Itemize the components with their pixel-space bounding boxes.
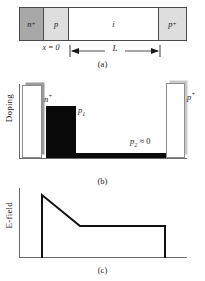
region-p-label: p xyxy=(54,19,58,29)
region-i-label: i xyxy=(112,19,114,29)
doping-label-n-plus: n+ xyxy=(44,91,52,104)
length-dimension: L xyxy=(69,44,161,58)
region-n-plus: n+ xyxy=(20,8,44,40)
doping-label-p2-relation: ≈ 0 xyxy=(137,136,150,146)
device-stack: n+ p i p+ xyxy=(19,7,187,41)
caption-a: (a) xyxy=(0,59,205,69)
doping-bar-p1 xyxy=(46,106,76,158)
doping-label-p1: p1 xyxy=(78,105,85,119)
efield-curve xyxy=(20,188,188,258)
panel-c-efield-profile: E-field (c) xyxy=(0,188,205,281)
caption-b: (b) xyxy=(0,176,205,186)
doping-label-p-plus-sup: + xyxy=(191,91,195,97)
doping-bar-n-plus xyxy=(22,85,42,158)
region-p-plus: p+ xyxy=(159,8,186,40)
doping-label-p2: p2 ≈ 0 xyxy=(130,136,150,150)
doping-axis-label: Doping xyxy=(4,94,14,122)
panel-a-device-cross-section: n+ p i p+ x = 0 L (a) xyxy=(0,0,205,72)
panel-b-doping-profile: Doping n+ p1 p2 ≈ 0 p+ (b) xyxy=(0,84,205,176)
doping-label-n-plus-sup: + xyxy=(48,93,52,99)
region-p: p xyxy=(44,8,69,40)
figure-container: n+ p i p+ x = 0 L (a) xyxy=(0,0,205,281)
efield-axis-label: E-field xyxy=(4,202,14,228)
length-label: L xyxy=(105,43,125,54)
efield-axes xyxy=(19,188,187,258)
doping-label-p1-sub: 1 xyxy=(82,111,85,117)
doping-bar-p-plus xyxy=(166,83,185,158)
region-n-plus-superscript: + xyxy=(32,21,36,27)
doping-axes: n+ p1 p2 ≈ 0 p+ xyxy=(19,84,187,159)
region-p-plus-superscript: + xyxy=(173,21,177,27)
doping-label-p-plus: p+ xyxy=(187,89,195,102)
caption-c: (c) xyxy=(0,265,205,275)
doping-bar-p2 xyxy=(76,153,166,158)
region-i: i xyxy=(69,8,159,40)
